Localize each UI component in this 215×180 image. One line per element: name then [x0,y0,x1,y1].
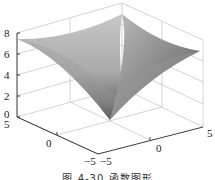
z-axis-labels: 8 6 4 2 0 [4,27,10,120]
svg-text:−5: −5 [100,155,112,167]
svg-text:0: 0 [46,137,52,149]
right-floor-axis-labels: −5 0 5 [100,127,213,167]
svg-text:4: 4 [4,69,10,81]
left-floor-axis-labels: 5 0 −5 [4,118,96,167]
surface-plot: 8 6 4 2 0 5 0 −5 −5 0 5 [0,0,215,180]
svg-text:6: 6 [4,48,10,60]
svg-text:0: 0 [156,142,162,154]
svg-text:5: 5 [4,118,10,130]
figure-caption: 图 4-30 函数图形 [0,170,215,180]
svg-text:2: 2 [4,90,10,102]
svg-text:8: 8 [4,27,10,39]
svg-text:−5: −5 [84,155,96,167]
svg-text:5: 5 [207,127,213,139]
